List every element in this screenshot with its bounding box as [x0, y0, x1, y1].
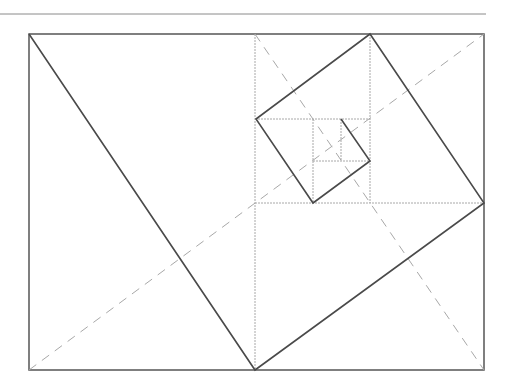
diagonal-line — [29, 34, 484, 370]
dashed-diagonals — [29, 34, 484, 370]
dashed-subdivisions — [255, 34, 484, 370]
golden-spiral-diagram — [0, 0, 507, 390]
